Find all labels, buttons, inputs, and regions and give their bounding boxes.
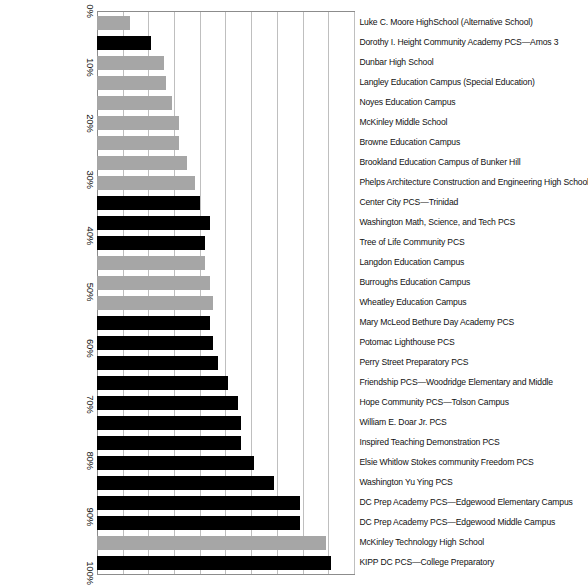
bar[interactable]	[97, 156, 187, 170]
gridline	[354, 12, 355, 574]
bar-slot	[97, 53, 354, 73]
bar[interactable]	[97, 316, 210, 330]
value-axis-tick: 20%	[85, 114, 96, 132]
bar[interactable]	[97, 216, 210, 230]
bar-slot	[97, 273, 354, 293]
bar[interactable]	[97, 256, 205, 270]
bar-slot	[97, 413, 354, 433]
bar-slot	[97, 533, 354, 553]
category-slot: Phelps Architecture Construction and Eng…	[357, 172, 385, 192]
bar[interactable]	[97, 436, 241, 450]
bar-series	[97, 12, 354, 574]
bar[interactable]	[97, 196, 200, 210]
bar-slot	[97, 173, 354, 193]
bar-slot	[97, 253, 354, 273]
bar[interactable]	[97, 16, 130, 30]
category-label: Inspired Teaching Demonstration PCS	[359, 438, 499, 447]
value-axis-tick: 80%	[85, 451, 96, 469]
category-label: McKinley Middle School	[359, 118, 447, 127]
value-axis-tick: 90%	[85, 508, 96, 526]
bar[interactable]	[97, 336, 213, 350]
bar-slot	[97, 353, 354, 373]
category-slot: William E. Doar Jr. PCS	[357, 412, 385, 432]
bar[interactable]	[97, 116, 179, 130]
bar[interactable]	[97, 416, 241, 430]
bar[interactable]	[97, 236, 205, 250]
bar-slot	[97, 193, 354, 213]
bar-slot	[97, 213, 354, 233]
category-label: Wheatley Education Campus	[359, 298, 466, 307]
bar[interactable]	[97, 96, 172, 110]
category-slot: Langdon Education Campus	[357, 252, 385, 272]
category-slot: Hope Community PCS—Tolson Campus	[357, 392, 385, 412]
bar-slot	[97, 373, 354, 393]
category-label: Langdon Education Campus	[359, 258, 464, 267]
category-label: Elsie Whitlow Stokes community Freedom P…	[359, 458, 533, 467]
value-axis-tick: 30%	[85, 170, 96, 188]
category-label: Dorothy I. Height Community Academy PCS—…	[359, 38, 558, 47]
bar[interactable]	[97, 396, 238, 410]
bar[interactable]	[97, 376, 228, 390]
category-label: DC Prep Academy PCS—Edgewood Elementary …	[359, 498, 572, 507]
bar[interactable]	[97, 556, 331, 570]
category-label: Phelps Architecture Construction and Eng…	[359, 178, 588, 187]
category-label: Browne Education Campus	[359, 138, 460, 147]
bar[interactable]	[97, 36, 151, 50]
bar-slot	[97, 453, 354, 473]
category-slot: Friendship PCS—Woodridge Elementary and …	[357, 372, 385, 392]
category-label: Tree of Life Community PCS	[359, 238, 464, 247]
bar[interactable]	[97, 476, 274, 490]
bar-slot	[97, 113, 354, 133]
bar-slot	[97, 293, 354, 313]
category-slot: McKinley Middle School	[357, 112, 385, 132]
bar-slot	[97, 393, 354, 413]
bar-slot	[97, 13, 354, 33]
category-slot: McKinley Technology High School	[357, 532, 385, 552]
bar-slot	[97, 153, 354, 173]
bar-slot	[97, 73, 354, 93]
category-label: Potomac Lighthouse PCS	[359, 338, 454, 347]
bar[interactable]	[97, 536, 326, 550]
category-label: DC Prep Academy PCS—Edgewood Middle Camp…	[359, 518, 555, 527]
value-axis-tick: 100%	[85, 561, 96, 585]
category-slot: Langley Education Campus (Special Educat…	[357, 72, 385, 92]
category-slot: Washington Math, Science, and Tech PCS	[357, 212, 385, 232]
category-slot: Luke C. Moore HighSchool (Alternative Sc…	[357, 12, 385, 32]
category-slot: Brookland Education Campus of Bunker Hil…	[357, 152, 385, 172]
category-slot: Potomac Lighthouse PCS	[357, 332, 385, 352]
category-label: Hope Community PCS—Tolson Campus	[359, 398, 508, 407]
value-axis-tick: 60%	[85, 339, 96, 357]
bar[interactable]	[97, 276, 210, 290]
category-slot: Wheatley Education Campus	[357, 292, 385, 312]
category-label: Washington Math, Science, and Tech PCS	[359, 218, 515, 227]
category-slot: DC Prep Academy PCS—Edgewood Middle Camp…	[357, 512, 385, 532]
bar[interactable]	[97, 496, 300, 510]
category-label: Dunbar High School	[359, 58, 433, 67]
bar[interactable]	[97, 136, 179, 150]
category-slot: KIPP DC PCS—College Preparatory	[357, 552, 385, 572]
bar-slot	[97, 433, 354, 453]
bar-slot	[97, 553, 354, 573]
bar[interactable]	[97, 516, 300, 530]
bar-slot	[97, 33, 354, 53]
category-slot: Elsie Whitlow Stokes community Freedom P…	[357, 452, 385, 472]
bar[interactable]	[97, 296, 213, 310]
bar[interactable]	[97, 76, 166, 90]
bar[interactable]	[97, 356, 218, 370]
bar[interactable]	[97, 56, 164, 70]
bar-slot	[97, 333, 354, 353]
category-slot: Dorothy I. Height Community Academy PCS—…	[357, 32, 385, 52]
category-slot: Center City PCS—Trinidad	[357, 192, 385, 212]
bar[interactable]	[97, 456, 254, 470]
category-slot: Mary McLeod Bethure Day Academy PCS	[357, 312, 385, 332]
value-axis-tick: 10%	[85, 58, 96, 76]
category-label: Perry Street Preparatory PCS	[359, 358, 468, 367]
bar-slot	[97, 313, 354, 333]
category-label: Luke C. Moore HighSchool (Alternative Sc…	[359, 18, 532, 27]
category-label: Friendship PCS—Woodridge Elementary and …	[359, 378, 553, 387]
bar-slot	[97, 93, 354, 113]
bar-slot	[97, 473, 354, 493]
bar[interactable]	[97, 176, 195, 190]
